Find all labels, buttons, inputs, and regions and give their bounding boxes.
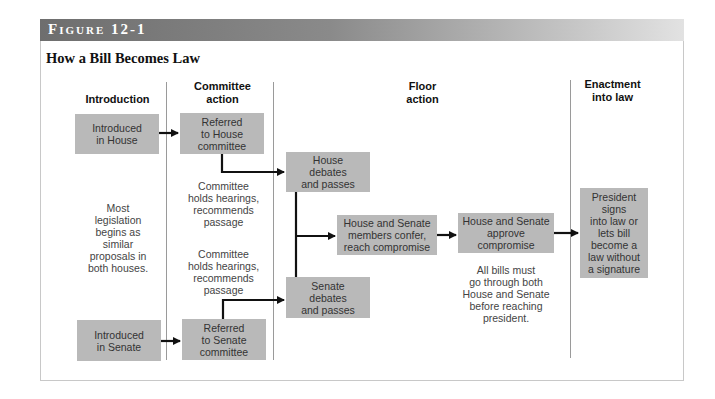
- box-senate-debates-and-passes: Senate debates and passes: [286, 277, 370, 318]
- box-president-signs: President signs into law or lets bill be…: [580, 188, 648, 278]
- note-all-bills: All bills must go through both House and…: [456, 264, 556, 324]
- note-committee-senate: Committee holds hearings, recommends pas…: [176, 248, 271, 296]
- box-introduced-in-house: Introduced in House: [75, 114, 159, 154]
- note-committee-house: Committee holds hearings, recommends pas…: [176, 180, 271, 228]
- box-introduced-in-senate: Introduced in Senate: [77, 320, 161, 361]
- box-approve-compromise: House and Senate approve compromise: [458, 213, 554, 253]
- box-conference-compromise: House and Senate members confer, reach c…: [337, 215, 437, 255]
- box-referred-to-senate-committee: Referred to Senate committee: [182, 319, 266, 360]
- box-house-debates-and-passes: House debates and passes: [286, 152, 370, 192]
- box-referred-to-house-committee: Referred to House committee: [180, 113, 264, 154]
- note-most-legislation: Most legislation begins as similar propo…: [72, 202, 164, 274]
